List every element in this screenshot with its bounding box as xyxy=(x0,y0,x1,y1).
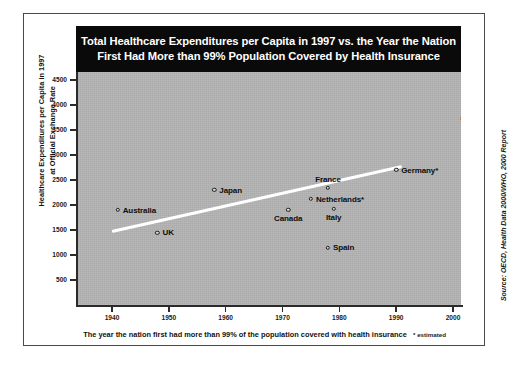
y-tick-label: 500 xyxy=(40,276,67,283)
y-tick xyxy=(70,179,77,180)
data-point-label: France xyxy=(315,175,341,184)
data-point-marker xyxy=(286,208,290,212)
plot-area: AustraliaUKJapanCanadaNetherlands*France… xyxy=(77,72,461,305)
data-point-marker xyxy=(115,208,119,212)
data-point-label: Japan xyxy=(219,186,242,195)
x-tick xyxy=(282,306,283,312)
x-tick xyxy=(225,306,226,312)
data-point-label: Australia xyxy=(123,206,156,215)
x-tick xyxy=(395,306,396,312)
data-point-label: Italy xyxy=(326,213,342,222)
x-axis-line xyxy=(76,305,463,307)
y-tick xyxy=(70,254,77,255)
y-tick xyxy=(70,229,77,230)
x-tick-label: 1970 xyxy=(275,314,290,321)
chart-title-bar: Total Healthcare Expenditures per Capita… xyxy=(76,26,461,72)
data-point-marker xyxy=(155,230,159,234)
y-axis-title: Healthcare Expenditures per Capita in 19… xyxy=(37,51,58,211)
x-tick xyxy=(339,306,340,312)
data-point-marker xyxy=(212,188,216,192)
y-tick xyxy=(70,279,77,280)
footnote-estimated: * estimated xyxy=(413,331,446,338)
x-tick-label: 1940 xyxy=(105,314,120,321)
chart-title-line-2: First Had More than 99% Population Cover… xyxy=(97,49,440,64)
x-axis-title: The year the nation first had more than … xyxy=(80,330,410,339)
x-tick-label: 1950 xyxy=(161,314,176,321)
data-point-marker xyxy=(326,245,330,249)
y-axis-line xyxy=(76,72,78,306)
data-point-label: Canada xyxy=(274,214,302,223)
y-tick xyxy=(70,104,77,105)
data-point-label: Netherlands* xyxy=(316,195,364,204)
y-tick xyxy=(70,204,77,205)
x-tick-label: 2000 xyxy=(446,314,461,321)
data-point-marker xyxy=(326,185,330,189)
data-point-label: Germany* xyxy=(401,166,438,175)
x-tick xyxy=(452,306,453,312)
y-tick-label: 1000 xyxy=(40,251,67,258)
x-tick xyxy=(168,306,169,312)
x-tick xyxy=(111,306,112,312)
y-tick-label: 1500 xyxy=(40,226,67,233)
data-point-label: Spain xyxy=(333,243,354,252)
data-point-label: UK xyxy=(162,228,173,237)
chart-figure: Total Healthcare Expenditures per Capita… xyxy=(0,0,510,375)
chart-title-line-1: Total Healthcare Expenditures per Capita… xyxy=(81,34,456,49)
y-tick xyxy=(70,129,77,130)
y-tick xyxy=(70,79,77,80)
plot-texture xyxy=(77,72,461,305)
x-tick-label: 1960 xyxy=(218,314,233,321)
data-point-marker xyxy=(309,197,313,201)
y-tick xyxy=(70,154,77,155)
source-note: Source: OECD, Health Data 2000/WHO, 2000… xyxy=(500,111,507,321)
x-tick-label: 1990 xyxy=(389,314,404,321)
data-point-marker xyxy=(394,168,398,172)
data-point-marker xyxy=(331,207,335,211)
x-tick-label: 1980 xyxy=(332,314,347,321)
